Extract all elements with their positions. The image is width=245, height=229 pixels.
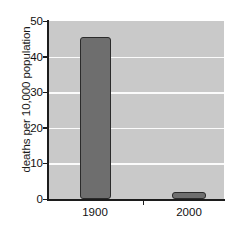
y-tick-label-0: 0 [20, 194, 43, 206]
gridline-10 [48, 163, 224, 165]
bar-2000[interactable] [172, 192, 206, 199]
bar-chart-figure: deaths per 10,000 population 50 40 30 20… [0, 0, 245, 229]
x-axis-spine [47, 199, 225, 201]
x-tick-mark-divider [143, 200, 145, 205]
gridline-40 [48, 57, 224, 59]
gridline-20 [48, 128, 224, 130]
y-tick-label-40: 40 [20, 52, 43, 64]
y-tick-label-30: 30 [20, 87, 43, 99]
y-tick-label-50: 50 [20, 16, 43, 28]
y-axis-spine [47, 20, 49, 200]
x-tick-label-1900: 1900 [82, 206, 108, 218]
gridline-30 [48, 92, 224, 94]
bar-1900[interactable] [80, 37, 111, 199]
x-tick-label-2000: 2000 [176, 206, 202, 218]
plot-area [48, 21, 224, 199]
y-tick-label-20: 20 [20, 123, 43, 135]
y-tick-label-10: 10 [20, 158, 43, 170]
